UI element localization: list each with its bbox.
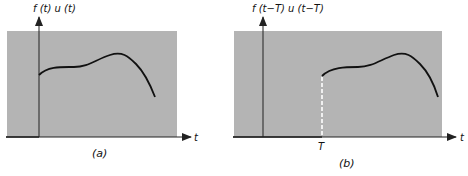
- x-axis-label-b: t: [460, 132, 465, 143]
- y-axis-label-a: f (t) u (t): [33, 3, 76, 14]
- shaded-region-b: [234, 31, 442, 137]
- y-axis-label-b: f (t−T) u (t−T): [252, 3, 324, 14]
- shaded-region-a: [7, 31, 177, 137]
- panel-b: f (t−T) u (t−T) t T (b): [233, 3, 465, 170]
- caption-b: (b): [339, 157, 355, 170]
- panel-a: f (t) u (t) t (a): [6, 3, 199, 160]
- x-axis-label-a: t: [194, 132, 199, 143]
- caption-a: (a): [92, 147, 107, 160]
- time-shift-diagram: f (t) u (t) t (a) f (t−T) u (t−T) t T (b…: [0, 0, 468, 176]
- shift-label-T: T: [318, 141, 325, 152]
